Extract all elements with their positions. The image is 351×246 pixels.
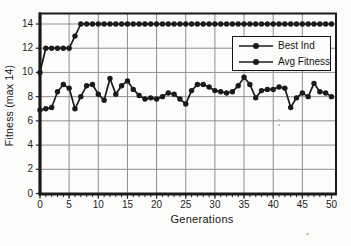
data-point-marker [136, 21, 141, 26]
data-point-marker [61, 82, 66, 87]
data-point-marker [224, 90, 229, 95]
data-point-marker [294, 21, 299, 26]
data-point-marker [305, 94, 310, 99]
data-point-marker [49, 105, 54, 110]
data-point-marker [253, 21, 258, 26]
data-point-marker [247, 82, 252, 87]
data-point-marker [61, 46, 66, 51]
data-point-marker [160, 94, 165, 99]
legend: Best IndAvg Fitness [232, 36, 331, 71]
series-marker-icon [238, 41, 274, 51]
data-point-marker [195, 82, 200, 87]
data-point-marker [125, 78, 130, 83]
data-point-marker [323, 90, 328, 95]
data-point-marker [55, 46, 60, 51]
data-point-marker [78, 94, 83, 99]
series-marker-icon [238, 57, 274, 67]
data-point-marker [230, 21, 235, 26]
data-point-marker [166, 21, 171, 26]
data-point-marker [265, 87, 270, 92]
data-point-marker [271, 87, 276, 92]
data-point-marker [96, 92, 101, 97]
data-point-marker [253, 95, 258, 100]
data-point-marker [276, 84, 281, 89]
data-point-marker [259, 88, 264, 93]
data-point-marker [142, 96, 147, 101]
data-point-marker [201, 21, 206, 26]
data-point-marker [294, 95, 299, 100]
data-point-marker [55, 89, 60, 94]
data-point-marker [84, 21, 89, 26]
data-point-marker [177, 96, 182, 101]
data-point-marker [160, 21, 165, 26]
data-point-marker [206, 84, 211, 89]
data-point-marker [142, 21, 147, 26]
data-point-marker [148, 95, 153, 100]
data-point-marker [230, 89, 235, 94]
data-point-marker [154, 21, 159, 26]
data-point-marker [259, 21, 264, 26]
data-point-marker [96, 21, 101, 26]
data-point-marker [189, 21, 194, 26]
data-point-marker [183, 21, 188, 26]
data-point-marker [66, 85, 71, 90]
data-point-marker [265, 21, 270, 26]
data-point-marker [317, 89, 322, 94]
data-point-marker [154, 96, 159, 101]
legend-item-avg-fitness: Avg Fitness [233, 54, 330, 70]
data-point-marker [72, 33, 77, 38]
data-point-marker [107, 76, 112, 81]
y-axis-title: Fitness (max 14) [3, 26, 16, 186]
data-point-marker [300, 21, 305, 26]
data-point-marker [317, 21, 322, 26]
data-point-marker [218, 21, 223, 26]
data-point-marker [271, 21, 276, 26]
legend-label: Best Ind [278, 40, 315, 51]
data-point-marker [288, 105, 293, 110]
data-point-marker [236, 83, 241, 88]
data-point-marker [166, 90, 171, 95]
data-point-marker [131, 87, 136, 92]
data-point-marker [224, 21, 229, 26]
scan-speck [278, 124, 280, 126]
data-point-marker [78, 21, 83, 26]
scan-speck [306, 233, 309, 235]
data-point-marker [119, 83, 124, 88]
data-point-marker [43, 46, 48, 51]
data-point-marker [125, 21, 130, 26]
data-point-marker [43, 106, 48, 111]
data-point-marker [171, 92, 176, 97]
data-point-marker [66, 46, 71, 51]
data-point-marker [195, 21, 200, 26]
data-point-marker [236, 21, 241, 26]
data-point-marker [131, 21, 136, 26]
data-point-marker [101, 98, 106, 103]
data-point-marker [329, 94, 334, 99]
data-point-marker [189, 88, 194, 93]
data-point-marker [119, 21, 124, 26]
data-point-marker [212, 21, 217, 26]
data-point-marker [218, 89, 223, 94]
data-point-marker [37, 70, 42, 75]
data-point-marker [84, 83, 89, 88]
data-point-marker [311, 21, 316, 26]
data-point-marker [212, 88, 217, 93]
data-point-marker [49, 46, 54, 51]
data-point-marker [247, 21, 252, 26]
data-point-marker [136, 93, 141, 98]
data-point-marker [300, 90, 305, 95]
data-point-marker [90, 21, 95, 26]
data-point-marker [177, 21, 182, 26]
data-point-marker [305, 21, 310, 26]
data-point-marker [288, 21, 293, 26]
data-point-marker [90, 82, 95, 87]
data-point-marker [323, 21, 328, 26]
data-point-marker [113, 92, 118, 97]
x-axis-title: Generations [52, 213, 351, 225]
scanned-fitness-chart: Fitness (max 14) Generations Best IndAvg… [0, 0, 351, 246]
data-point-marker [113, 21, 118, 26]
data-point-marker [37, 107, 42, 112]
scan-speck [278, 119, 280, 121]
data-point-marker [183, 101, 188, 106]
legend-label: Avg Fitness [278, 56, 330, 67]
